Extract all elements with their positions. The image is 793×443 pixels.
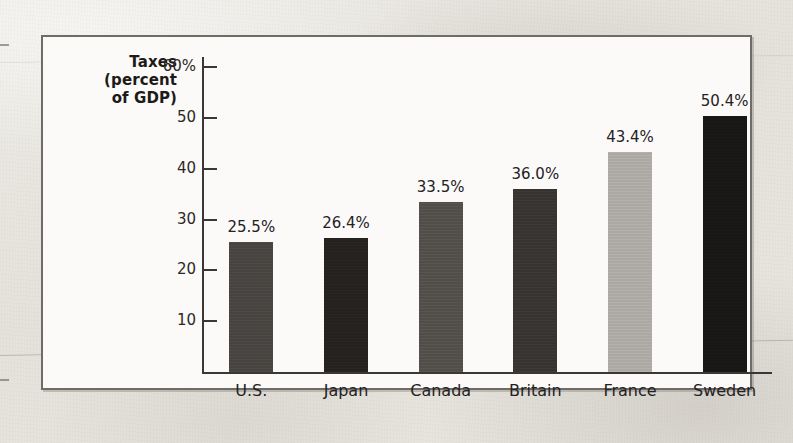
page-edge-mark [0, 379, 9, 381]
y-axis-tick-label: 20 [136, 262, 196, 277]
bar-value-label: 50.4% [701, 94, 749, 109]
x-axis-category-label: U.S. [196, 383, 306, 399]
x-axis-line [202, 372, 772, 374]
x-axis-category-label: France [575, 383, 685, 399]
bar-group: 50.4% [677, 57, 772, 372]
y-axis-tick-label: 60% [136, 59, 196, 74]
bar-value-label: 36.0% [512, 167, 560, 182]
x-axis-category-label: Sweden [670, 383, 780, 399]
chart-frame: Taxes (percent of GDP) 60%5040302010 25.… [41, 35, 752, 390]
bar-value-label: 43.4% [606, 130, 654, 145]
y-axis-title-line-3: of GDP) [49, 89, 177, 107]
bar [229, 242, 273, 372]
bar-group: 43.4% [583, 57, 678, 372]
bar-value-label: 26.4% [322, 216, 370, 231]
bar [324, 238, 368, 372]
chart-inner: Taxes (percent of GDP) 60%5040302010 25.… [43, 37, 750, 388]
bar [419, 202, 463, 372]
bar-group: 26.4% [299, 57, 394, 372]
plot-area: 25.5%26.4%33.5%36.0%43.4%50.4% [204, 57, 772, 372]
bar [703, 116, 747, 372]
bar-value-label: 25.5% [228, 220, 276, 235]
x-axis-category-label: Britain [480, 383, 590, 399]
y-axis-tick-label: 40 [136, 161, 196, 176]
page-edge-mark [0, 44, 9, 46]
x-axis-category-label: Japan [291, 383, 401, 399]
bar-group: 33.5% [393, 57, 488, 372]
y-axis-tick-label: 30 [136, 212, 196, 227]
bar-group: 25.5% [204, 57, 299, 372]
bar-value-label: 33.5% [417, 180, 465, 195]
bar [608, 152, 652, 373]
bar [513, 189, 557, 372]
bar-group: 36.0% [488, 57, 583, 372]
y-axis-tick-label: 10 [136, 313, 196, 328]
x-axis-category-label: Canada [386, 383, 496, 399]
y-axis-tick-label: 50 [136, 110, 196, 125]
